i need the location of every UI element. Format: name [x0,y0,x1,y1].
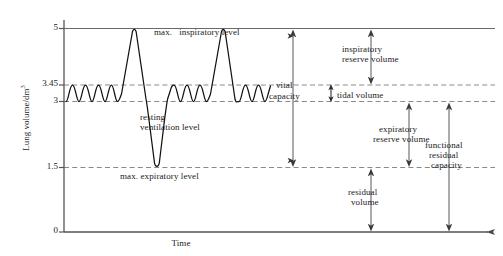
label-residual-volume-line2: volume [351,197,379,208]
label-functional-residual-capacity-line1: functional [425,140,463,151]
label-residual-volume-line1: residual [348,187,377,198]
label-inspiratory-reserve-volume-line1: inspiratory [342,44,382,55]
label-functional-residual-capacity-line2: residual [429,150,458,161]
label-expiratory-reserve-volume-line2: reserve volume [373,134,430,145]
y-tick-label-3: 3 [36,95,58,105]
annotation-resting-ventilation-level-line2: ventilation level [140,122,200,133]
chart-svg [0,0,503,256]
label-expiratory-reserve-volume-line1: expiratory [379,124,417,135]
y-tick-label-0: 0 [36,225,58,235]
y-tick-label-1-5: 1.5 [30,161,58,171]
spirometer-trace [66,29,271,166]
label-vital-capacity-line2: capacity [269,91,300,102]
y-axis-title: Lung volume/dm3 [19,48,31,188]
arrow-tidal-volume [328,84,333,102]
label-tidal-volume: tidal volume [337,90,383,101]
label-vital-capacity-line1: vital [276,80,293,91]
y-axis-title-superscript: 3 [19,85,26,88]
annotation-resting-ventilation-level-line1: resting [140,112,165,123]
y-tick-label-5: 5 [36,22,58,32]
y-tick-marks [59,29,64,233]
lung-volume-chart: 5 3.45 3 1.5 0 Lung volume/dm3 Time max.… [0,0,503,256]
label-inspiratory-reserve-volume-line2: reserve volume [342,54,399,65]
annotation-max-expiratory-level: max. expiratory level [120,171,199,182]
y-axis-title-text: Lung volume/dm [21,89,31,151]
annotation-max-inspiratory-level: max. inspiratory level [154,27,240,38]
x-axis-title: Time [136,238,226,249]
axes [59,20,488,232]
label-functional-residual-capacity-line3: capacity [431,160,462,171]
